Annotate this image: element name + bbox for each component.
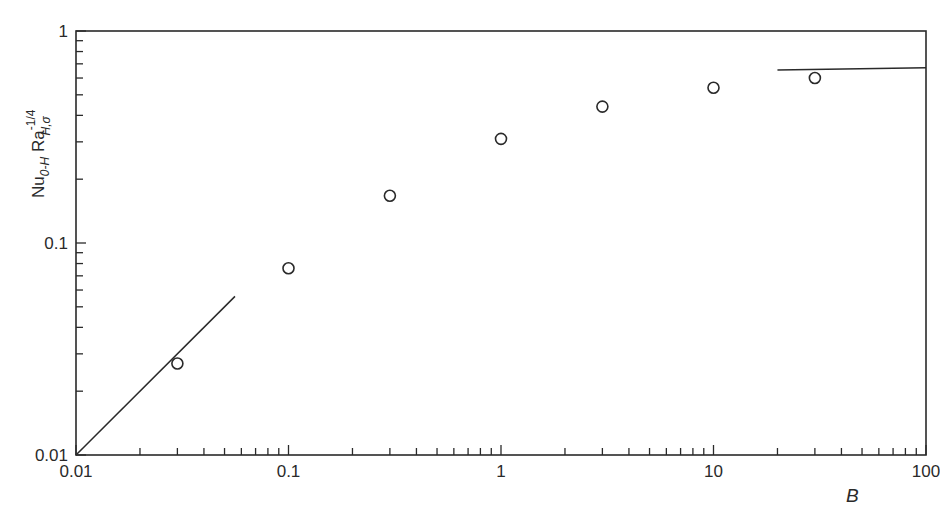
y-tick-label: 0.1 bbox=[44, 234, 68, 253]
y-tick-label: 1 bbox=[59, 22, 68, 41]
asymptote-line bbox=[76, 296, 235, 455]
asymptote-lines bbox=[76, 68, 926, 455]
y-tick-label: 0.01 bbox=[35, 446, 68, 465]
data-point-circle bbox=[597, 101, 608, 112]
x-tick-label: 10 bbox=[704, 462, 723, 481]
plot-frame bbox=[76, 31, 926, 455]
axis-ticks: 0.010.11101000.010.11 bbox=[35, 22, 940, 481]
data-point-circle bbox=[809, 73, 820, 84]
asymptote-line bbox=[777, 68, 926, 70]
y-label-nu-subscript: 0-H bbox=[38, 157, 52, 177]
x-tick-label: 1 bbox=[496, 462, 505, 481]
y-axis-label: Nu0-HRa-1/4H,σ bbox=[24, 109, 53, 198]
log-log-plot: 0.010.11101000.010.11 B Nu0-HRa-1/4H,σ bbox=[0, 0, 940, 517]
x-tick-label: 100 bbox=[912, 462, 940, 481]
data-point-circle bbox=[496, 133, 507, 144]
data-point-circle bbox=[384, 190, 395, 201]
chart: 0.010.11101000.010.11 B Nu0-HRa-1/4H,σ bbox=[0, 0, 940, 517]
axes bbox=[76, 31, 926, 455]
data-point-circle bbox=[708, 82, 719, 93]
data-point-circle bbox=[283, 263, 294, 274]
x-tick-label: 0.1 bbox=[277, 462, 301, 481]
y-label-nu: Nu bbox=[29, 176, 48, 198]
data-point-circle bbox=[172, 358, 183, 369]
x-axis-label: B bbox=[846, 485, 859, 506]
y-label-ra-superscript: -1/4 bbox=[24, 109, 38, 130]
data-markers bbox=[172, 73, 821, 370]
y-label-ra-subscript: H,σ bbox=[39, 116, 53, 136]
